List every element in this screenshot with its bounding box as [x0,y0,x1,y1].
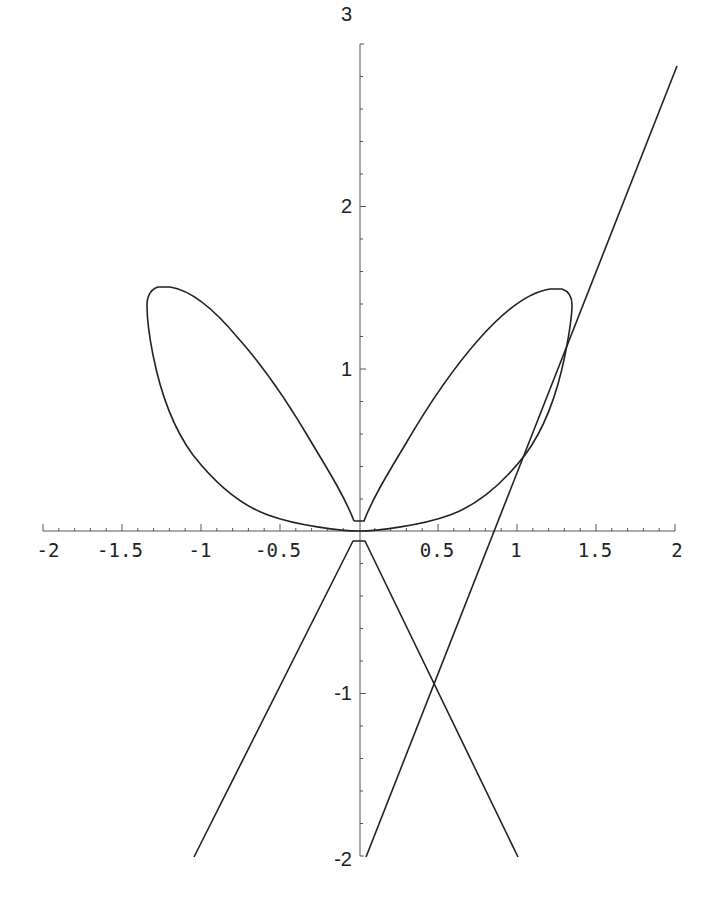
curves [147,66,677,857]
y-tick-label: -2 [334,848,352,870]
x-tick-label: 1 [510,539,521,561]
x-tick-label: -1.5 [97,539,143,561]
inverted-v-curve [194,541,518,857]
x-tick-label: 2 [671,539,682,561]
y-tick-label: 1 [341,358,352,380]
x-tick-label: 1.5 [578,539,612,561]
x-tick-label: -1 [189,539,212,561]
right-loop-curve [354,289,572,531]
y-tick-label: 2 [341,195,352,217]
plot-area: -2 -1.5 -1 -0.5 0.5 1 1.5 2 [0,0,717,902]
y-axis: 3 2 1 -1 -2 [334,3,366,870]
x-tick-label: 0.5 [420,539,454,561]
tangent-line [366,66,677,857]
x-tick-label: -0.5 [255,539,301,561]
y-tick-label: 3 [341,3,352,25]
y-tick-label: -1 [334,682,352,704]
left-loop-curve [147,287,359,531]
x-tick-label: -2 [37,539,60,561]
